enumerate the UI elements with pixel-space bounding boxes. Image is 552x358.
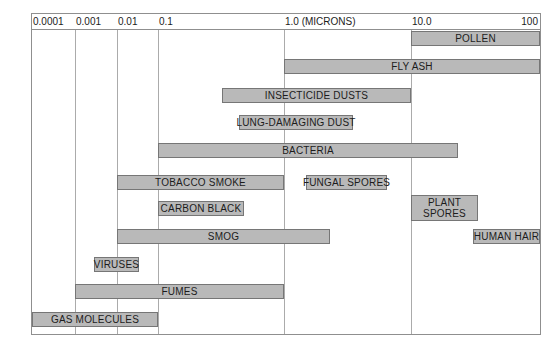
axis-band-separator	[31, 29, 541, 30]
particle-size-chart: 0.00010.0010.010.11.0 (MICRONS)10.0100 P…	[0, 0, 552, 358]
chart-frame	[31, 13, 541, 335]
